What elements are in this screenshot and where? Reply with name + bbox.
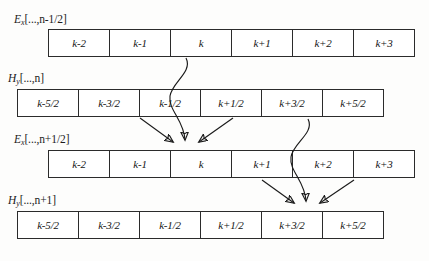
- diagonal-arrow-ex-k-plus-2: [320, 180, 354, 203]
- grid-row-hy-n-plus-1: k-5/2 k-3/2 k-1/2 k+1/2 k+3/2 k+5/2: [17, 211, 384, 239]
- grid-cell: k+3/2: [262, 90, 323, 116]
- diagonal-arrow-ex-k-plus-1: [262, 180, 294, 203]
- row-label-argument: [...,n]: [20, 72, 44, 84]
- row-label-argument: [...,n+1/2]: [24, 133, 69, 145]
- row-label-symbol: E: [14, 13, 21, 25]
- row-label-argument: [...,n+1]: [20, 194, 56, 206]
- grid-cell: k+3: [354, 151, 414, 177]
- grid-cell: k-1: [110, 151, 171, 177]
- grid-cell: k+2: [293, 151, 354, 177]
- diagonal-arrow-hy-k-minus-half: [140, 118, 173, 142]
- grid-cell: k+3: [354, 30, 414, 56]
- row-label-symbol: E: [14, 133, 21, 145]
- row-label-hy-n: Hy[...,n]: [8, 72, 44, 86]
- grid-row-ex-n-minus-half: k-2 k-1 k k+1 k+2 k+3: [48, 29, 415, 57]
- grid-cell: k+2: [293, 30, 354, 56]
- grid-cell: k-3/2: [79, 90, 140, 116]
- row-label-symbol: H: [8, 194, 16, 206]
- grid-cell: k-2: [49, 151, 110, 177]
- grid-cell: k+1: [232, 30, 293, 56]
- row-label-symbol: H: [8, 72, 16, 84]
- grid-cell: k-5/2: [18, 212, 79, 238]
- diagram-canvas: Ex[...,n-1/2] k-2 k-1 k k+1 k+2 k+3 Hy[.…: [0, 0, 429, 261]
- grid-cell: k+5/2: [323, 212, 383, 238]
- grid-cell: k: [171, 151, 232, 177]
- grid-cell: k+3/2: [262, 212, 323, 238]
- grid-cell: k-2: [49, 30, 110, 56]
- diagonal-arrow-hy-k-plus-half: [199, 118, 233, 142]
- grid-cell: k+1/2: [201, 212, 262, 238]
- grid-cell: k: [171, 30, 232, 56]
- grid-cell: k+5/2: [323, 90, 383, 116]
- row-label-ex-n-minus-half: Ex[...,n-1/2]: [14, 13, 67, 27]
- grid-cell: k-1: [110, 30, 171, 56]
- row-label-hy-n-plus-1: Hy[...,n+1]: [8, 194, 56, 208]
- grid-cell: k-1/2: [140, 212, 201, 238]
- grid-cell: k+1/2: [201, 90, 262, 116]
- grid-cell: k+1: [232, 151, 293, 177]
- grid-cell: k-5/2: [18, 90, 79, 116]
- row-label-argument: [...,n-1/2]: [24, 13, 66, 25]
- row-label-ex-n-plus-half: Ex[...,n+1/2]: [14, 133, 69, 147]
- grid-row-ex-n-plus-half: k-2 k-1 k k+1 k+2 k+3: [48, 150, 415, 178]
- grid-cell: k-3/2: [79, 212, 140, 238]
- grid-cell: k-1/2: [140, 90, 201, 116]
- grid-row-hy-n: k-5/2 k-3/2 k-1/2 k+1/2 k+3/2 k+5/2: [17, 89, 384, 117]
